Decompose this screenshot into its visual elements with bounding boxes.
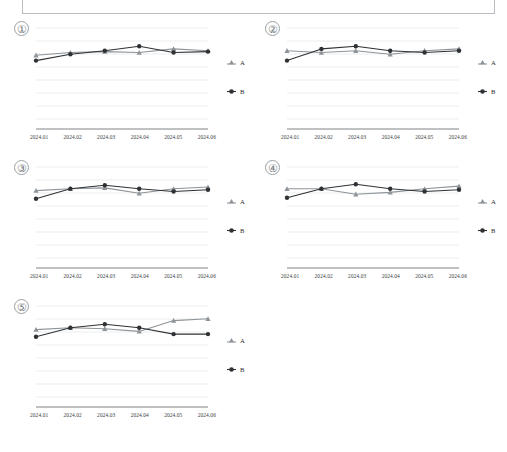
chart-x-axis-2: 2024.01 2024.02 2024.03 2024.04 2024.05 … [281, 134, 467, 140]
x-tick-label: 2024.02 [64, 412, 82, 418]
x-tick-label: 2024.02 [64, 273, 82, 279]
x-tick-label: 2024.01 [281, 273, 299, 279]
chart-grid: ① 2024.01 2024.02 2024.03 2024.04 2024.0… [0, 18, 507, 452]
legend-label-b: B [240, 226, 244, 235]
circle-marker-icon [226, 87, 237, 96]
data-point-b [34, 58, 38, 62]
legend-item-a[interactable]: A [477, 197, 507, 206]
triangle-marker-icon [477, 197, 488, 206]
data-point-b [171, 50, 175, 54]
x-tick-label: 2024.05 [164, 134, 182, 140]
legend-item-a[interactable]: A [226, 336, 262, 345]
data-point-b [171, 332, 175, 336]
chart-index-badge-1: ① [14, 21, 29, 36]
chart-panel-2: ② 2024.01 2024.02 2024.03 2024.04 2024.0… [251, 18, 504, 158]
chart-index-badge-2: ② [265, 21, 280, 36]
data-point-b [354, 44, 358, 48]
top-empty-panel [22, 0, 495, 14]
data-point-b [137, 326, 141, 330]
triangle-marker-icon [226, 197, 237, 206]
data-point-b [206, 49, 210, 53]
chart-plot-area-2 [287, 24, 459, 131]
x-tick-label: 2024.06 [198, 273, 216, 279]
chart-x-axis-5: 2024.01 2024.02 2024.03 2024.04 2024.05 … [30, 412, 216, 418]
x-tick-label: 2024.05 [415, 273, 433, 279]
data-point-b [422, 50, 426, 54]
chart-legend-5: A B [226, 336, 262, 394]
legend-item-b[interactable]: B [226, 365, 262, 374]
x-tick-label: 2024.05 [164, 273, 182, 279]
triangle-marker-icon [477, 58, 488, 67]
x-tick-label: 2024.04 [131, 134, 149, 140]
legend-label-a: A [491, 58, 496, 67]
chart-index-badge-3: ③ [14, 160, 29, 175]
x-tick-label: 2024.01 [281, 134, 299, 140]
x-tick-label: 2024.03 [97, 412, 115, 418]
series-line-b [287, 184, 459, 198]
data-point-b [206, 332, 210, 336]
x-tick-label: 2024.04 [382, 134, 400, 140]
x-tick-label: 2024.03 [348, 273, 366, 279]
chart-index-badge-4: ④ [265, 160, 280, 175]
chart-index-badge-5: ⑤ [14, 299, 29, 314]
legend-item-b[interactable]: B [477, 87, 507, 96]
legend-label-b: B [491, 87, 495, 96]
circle-marker-icon [226, 226, 237, 235]
chart-plot-area-4 [287, 163, 459, 270]
data-point-b [457, 49, 461, 53]
data-point-b [388, 49, 392, 53]
data-point-b [137, 44, 141, 48]
x-tick-label: 2024.06 [449, 273, 467, 279]
x-tick-label: 2024.01 [30, 273, 48, 279]
data-point-b [319, 187, 323, 191]
x-tick-label: 2024.01 [30, 412, 48, 418]
series-line-b [287, 46, 459, 60]
series-line-b [36, 185, 208, 199]
data-point-b [206, 188, 210, 192]
chart-plot-area-1 [36, 24, 208, 131]
triangle-marker-icon [226, 336, 237, 345]
data-point-b [354, 182, 358, 186]
chart-panel-1: ① 2024.01 2024.02 2024.03 2024.04 2024.0… [0, 18, 253, 158]
x-tick-label: 2024.05 [415, 134, 433, 140]
data-point-b [68, 52, 72, 56]
data-point-b [68, 326, 72, 330]
x-tick-label: 2024.04 [131, 273, 149, 279]
chart-plot-area-5 [36, 302, 208, 409]
chart-x-axis-4: 2024.01 2024.02 2024.03 2024.04 2024.05 … [281, 273, 467, 279]
chart-legend-2: A B [477, 58, 507, 116]
x-tick-label: 2024.02 [315, 134, 333, 140]
legend-label-a: A [491, 197, 496, 206]
data-point-b [68, 187, 72, 191]
data-point-b [34, 197, 38, 201]
series-line-a [36, 187, 208, 193]
data-point-b [285, 58, 289, 62]
data-point-b [137, 187, 141, 191]
x-tick-label: 2024.01 [30, 134, 48, 140]
data-point-b [422, 189, 426, 193]
x-tick-label: 2024.04 [382, 273, 400, 279]
data-point-b [388, 187, 392, 191]
chart-x-axis-1: 2024.01 2024.02 2024.03 2024.04 2024.05 … [30, 134, 216, 140]
x-tick-label: 2024.06 [198, 412, 216, 418]
legend-label-a: A [240, 336, 245, 345]
circle-marker-icon [477, 226, 488, 235]
legend-label-b: B [240, 87, 244, 96]
circle-marker-icon [226, 365, 237, 374]
legend-label-a: A [240, 197, 245, 206]
legend-item-a[interactable]: A [477, 58, 507, 67]
legend-label-b: B [491, 226, 495, 235]
data-point-b [319, 47, 323, 51]
legend-item-b[interactable]: B [477, 226, 507, 235]
x-tick-label: 2024.03 [97, 134, 115, 140]
data-point-b [103, 183, 107, 187]
legend-label-b: B [240, 365, 244, 374]
legend-label-a: A [240, 58, 245, 67]
x-tick-label: 2024.02 [64, 134, 82, 140]
x-tick-label: 2024.06 [449, 134, 467, 140]
x-tick-label: 2024.03 [97, 273, 115, 279]
data-point-b [171, 189, 175, 193]
circle-marker-icon [477, 87, 488, 96]
data-point-b [285, 196, 289, 200]
x-tick-label: 2024.06 [198, 134, 216, 140]
